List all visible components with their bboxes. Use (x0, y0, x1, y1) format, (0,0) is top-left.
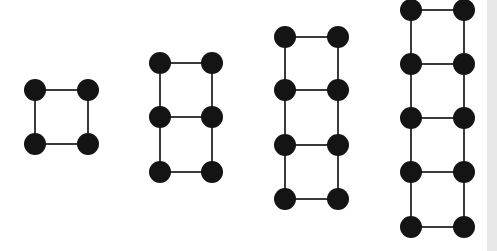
graph-node (400, 53, 422, 75)
graph-node (77, 133, 99, 155)
graph-node (149, 106, 171, 128)
graph-node (77, 79, 99, 101)
graph-node (400, 0, 422, 21)
graph-node (201, 106, 223, 128)
graph-node (453, 53, 475, 75)
graph-node (327, 188, 349, 210)
graph-node (274, 79, 296, 101)
graph-node (274, 26, 296, 48)
graph-node (453, 216, 475, 238)
graph-node (327, 79, 349, 101)
ladder-figure-3 (274, 26, 349, 210)
graph-node (327, 134, 349, 156)
graph-node (453, 0, 475, 21)
ladder-figure-2 (149, 52, 223, 183)
ladder-figure-4 (400, 0, 475, 238)
graph-node (400, 161, 422, 183)
graph-node (274, 134, 296, 156)
graph-node (149, 52, 171, 74)
ladder-graph-sequence (0, 0, 497, 251)
ladder-figure-1 (24, 79, 99, 155)
graph-node (201, 161, 223, 183)
graph-node (24, 79, 46, 101)
graph-node (149, 161, 171, 183)
graph-node (327, 26, 349, 48)
graph-node (453, 161, 475, 183)
graph-node (453, 107, 475, 129)
graph-node (201, 52, 223, 74)
graph-node (274, 188, 296, 210)
graph-node (400, 107, 422, 129)
graph-node (400, 216, 422, 238)
graph-node (24, 133, 46, 155)
